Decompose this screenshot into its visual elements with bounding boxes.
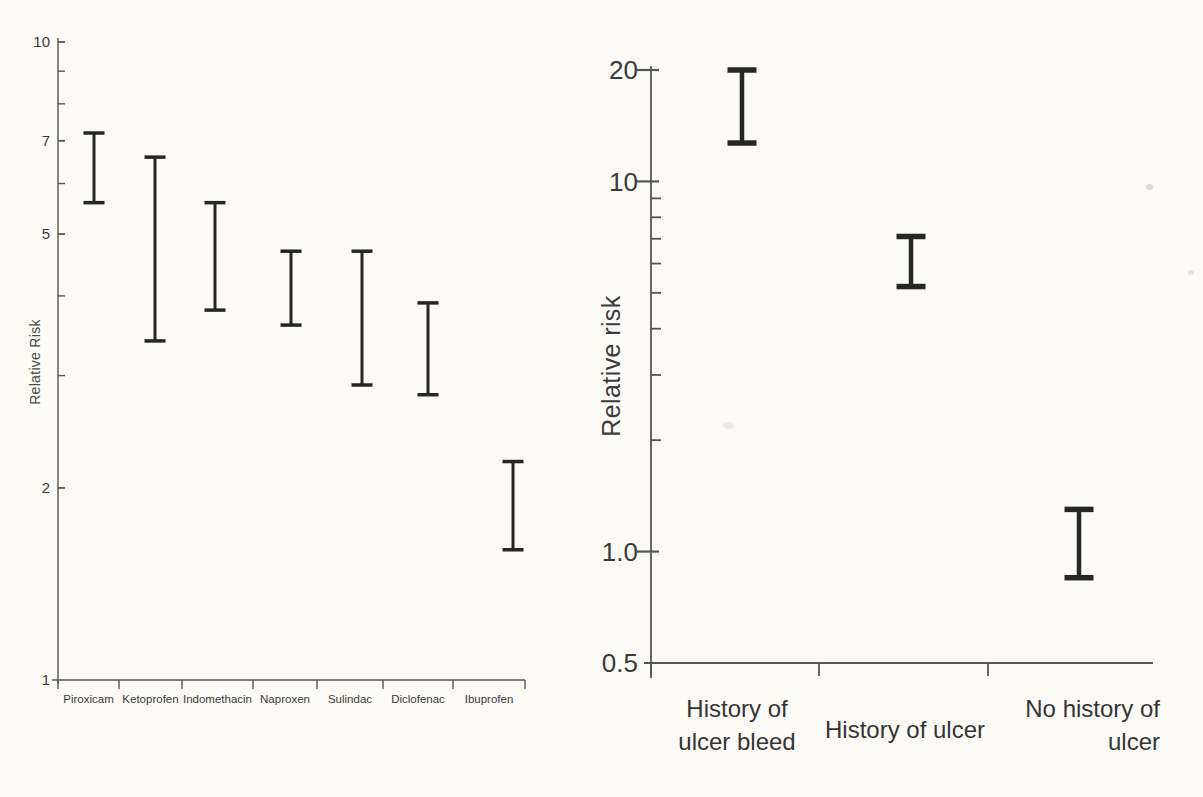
- y-tick-label-2: 2: [42, 479, 50, 496]
- category-label-indomethacin: Indomethacin: [183, 693, 252, 705]
- error-bar-piroxicam: [84, 133, 105, 203]
- category-label-no-history-of-ulcer: No history of: [1025, 695, 1160, 722]
- y-tick-label-1-0: 1.0: [602, 537, 638, 567]
- category-label-naproxen: Naproxen: [260, 693, 310, 705]
- y-tick-label-5: 5: [42, 225, 50, 242]
- error-bar-ketoprofen: [145, 157, 166, 341]
- scanned-figure: Relative Risk Relative risk 107521Piroxi…: [0, 0, 1203, 797]
- category-label-ketoprofen: Ketoprofen: [122, 693, 178, 705]
- nsaid-relative-risk-chart: 107521PiroxicamKetoprofenIndomethacinNap…: [33, 33, 525, 705]
- ulcer-history-relative-risk-chart: 20101.00.5History ofulcer bleedHistory o…: [602, 55, 1160, 755]
- category-label-ibuprofen: Ibuprofen: [465, 693, 514, 705]
- error-bar-naproxen: [281, 251, 302, 325]
- y-tick-label-20: 20: [609, 55, 638, 85]
- category-label-history-of-ulcer-bleed: ulcer bleed: [678, 728, 795, 755]
- category-label-sulindac: Sulindac: [328, 693, 372, 705]
- error-bar-ibuprofen: [503, 462, 524, 550]
- error-bar-no-history-of-ulcer: [1065, 509, 1094, 577]
- error-bar-sulindac: [352, 251, 373, 385]
- category-label-piroxicam: Piroxicam: [63, 693, 113, 705]
- error-bar-diclofenac: [418, 303, 439, 395]
- error-bar-charts: 107521PiroxicamKetoprofenIndomethacinNap…: [0, 0, 1203, 797]
- y-tick-label-7: 7: [42, 132, 50, 149]
- error-bar-indomethacin: [205, 203, 226, 310]
- y-tick-label-1: 1: [42, 671, 50, 688]
- y-tick-label-10: 10: [33, 33, 50, 50]
- category-label-history-of-ulcer-bleed: History of: [686, 695, 788, 722]
- category-label-no-history-of-ulcer: ulcer: [1108, 728, 1160, 755]
- category-label-history-of-ulcer: History of ulcer: [825, 716, 985, 743]
- category-label-diclofenac: Diclofenac: [391, 693, 445, 705]
- y-tick-label-10: 10: [609, 167, 638, 197]
- error-bar-history-of-ulcer: [897, 236, 926, 286]
- error-bar-history-of-ulcer-bleed: [728, 70, 757, 143]
- y-tick-label-0-5: 0.5: [602, 648, 638, 678]
